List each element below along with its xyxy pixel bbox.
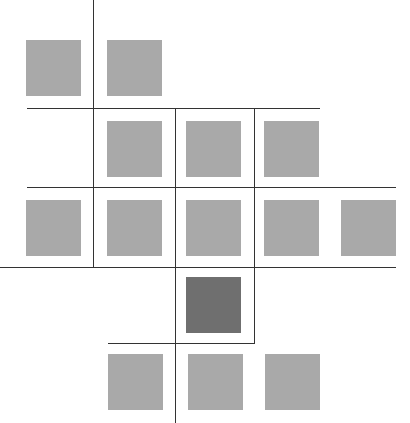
grid-line-horizontal xyxy=(0,267,396,268)
highlighted-cell xyxy=(186,277,241,333)
grid-line-horizontal xyxy=(27,187,396,188)
grid-cell xyxy=(107,200,162,256)
grid-cell xyxy=(107,121,162,177)
grid-line-horizontal xyxy=(108,343,255,344)
grid-line-vertical xyxy=(175,108,176,423)
grid-cell xyxy=(264,200,319,256)
grid-cell xyxy=(108,354,163,410)
grid-line-horizontal xyxy=(27,108,320,109)
grid-cell xyxy=(26,40,81,96)
grid-cell xyxy=(265,354,320,410)
grid-line-vertical xyxy=(254,108,255,343)
grid-cell xyxy=(186,200,241,256)
grid-cell xyxy=(26,200,81,256)
grid-cell xyxy=(188,354,243,410)
grid-cell xyxy=(107,40,162,96)
grid-diagram xyxy=(0,0,410,423)
grid-line-vertical xyxy=(93,0,94,267)
grid-cell xyxy=(264,121,319,177)
grid-cell xyxy=(186,121,241,177)
grid-cell xyxy=(341,200,396,256)
